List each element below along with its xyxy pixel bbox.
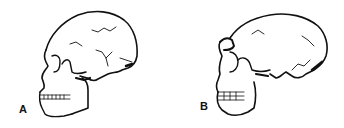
figure-label-a: A [19, 103, 27, 115]
figure-a: A [0, 0, 172, 128]
skull-b-icon [172, 0, 344, 128]
figure-label-b: B [200, 100, 208, 112]
figure-b: B [172, 0, 344, 128]
